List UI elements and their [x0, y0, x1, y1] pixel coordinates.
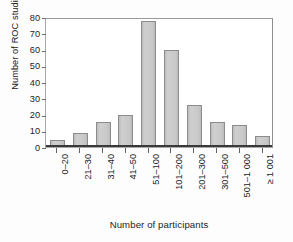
y-axis-tick-mark — [42, 18, 46, 19]
x-axis-title: Number of participants — [45, 219, 273, 230]
x-axis-tick-label: 21–30 — [83, 154, 93, 210]
x-axis-tick-label: 41–50 — [128, 154, 138, 210]
y-axis-tick-label: 10 — [20, 127, 40, 136]
x-axis-tick-label: 0–20 — [60, 154, 70, 210]
x-axis-tick-mark — [170, 148, 171, 153]
bar — [96, 122, 111, 146]
y-axis-tick-mark — [42, 34, 46, 35]
x-axis-tick-label: ≥ 1 001 — [265, 154, 275, 210]
y-axis-tick-label: 60 — [20, 46, 40, 55]
y-axis-tick-labels: 01020304050607080 — [20, 18, 40, 148]
x-axis-tick-labels: 0–2021–3031–4041–5051–100101–200201–3003… — [45, 156, 273, 212]
x-axis-tick-mark — [262, 148, 263, 153]
x-axis-tick-mark — [193, 148, 194, 153]
x-axis-tick-mark — [239, 148, 240, 153]
roc-studies-histogram-figure: Number of ROC studies 01020304050607080 … — [0, 0, 293, 242]
plot-area — [46, 19, 272, 147]
y-axis-tick-mark — [42, 116, 46, 117]
x-axis-tick-mark — [125, 148, 126, 153]
x-axis-tick-mark — [102, 148, 103, 153]
y-axis-tick-label: 80 — [20, 14, 40, 23]
bar — [187, 105, 202, 146]
bar — [210, 122, 225, 146]
x-axis-tick-label: 51–100 — [151, 154, 161, 210]
y-axis-tick-mark — [42, 132, 46, 133]
bar — [118, 115, 133, 146]
y-axis-tick-mark — [42, 51, 46, 52]
y-axis-tick-label: 40 — [20, 79, 40, 88]
x-axis-tick-mark — [79, 148, 80, 153]
y-axis-tick-mark — [42, 67, 46, 68]
x-axis-tick-label: 501–1 000 — [242, 154, 252, 210]
x-axis-tick-label: 31–40 — [106, 154, 116, 210]
bar — [232, 125, 247, 146]
bar — [141, 21, 156, 146]
x-axis-tick-label: 301–500 — [220, 154, 230, 210]
y-axis-tick-mark — [42, 83, 46, 84]
y-axis-tick-mark — [42, 99, 46, 100]
x-axis-baseline — [46, 145, 272, 147]
y-axis-tick-label: 0 — [20, 144, 40, 153]
plot-frame — [45, 18, 273, 148]
y-axis-tick-mark — [42, 148, 46, 149]
x-axis-tick-mark — [56, 148, 57, 153]
y-axis-tick-label: 50 — [20, 62, 40, 71]
y-axis-tick-label: 70 — [20, 30, 40, 39]
x-axis-tick-mark — [148, 148, 149, 153]
x-axis-tick-label: 201–300 — [197, 154, 207, 210]
bar — [164, 50, 179, 146]
y-axis-tick-label: 20 — [20, 111, 40, 120]
x-axis-tick-label: 101–200 — [174, 154, 184, 210]
x-axis-tick-mark — [216, 148, 217, 153]
y-axis-tick-label: 30 — [20, 95, 40, 104]
